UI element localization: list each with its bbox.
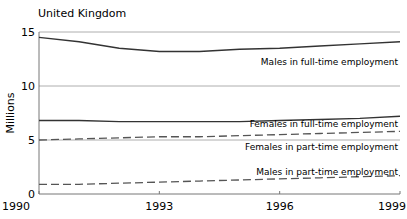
x-tick-label: 1993 bbox=[145, 200, 173, 213]
series-label: Females in part-time employment bbox=[245, 142, 398, 152]
series-label: Males in full-time employment bbox=[261, 57, 399, 67]
series-label: Females in full-time employment bbox=[250, 119, 399, 129]
line-chart: United Kingdom0510151990199319961999Mill… bbox=[0, 0, 407, 219]
x-tick-label: 1990 bbox=[2, 200, 30, 213]
series-line bbox=[39, 131, 400, 140]
y-axis-label: Millions bbox=[4, 92, 17, 133]
x-tick-label: 1996 bbox=[266, 200, 294, 213]
chart-title: United Kingdom bbox=[38, 7, 126, 20]
series-line bbox=[39, 37, 400, 51]
series-label: Males in part-time employment bbox=[256, 167, 398, 177]
y-tick-label: 10 bbox=[21, 80, 35, 93]
y-tick-label: 15 bbox=[21, 26, 35, 39]
y-tick-label: 5 bbox=[28, 134, 35, 147]
x-tick-label: 1999 bbox=[378, 200, 406, 213]
